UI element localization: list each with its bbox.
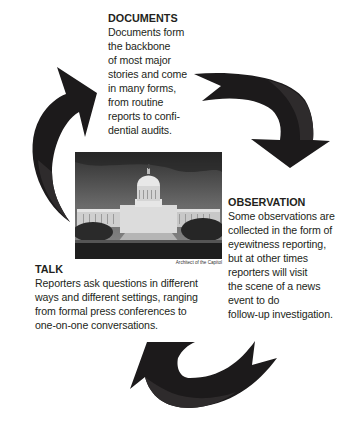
documents-text-line: Documents form [108, 25, 187, 39]
observation-section: OBSERVATION Some observations are collec… [228, 195, 335, 321]
talk-text-line: ways and different settings, ranging [35, 290, 198, 304]
observation-text-line: Some observations are [228, 209, 335, 223]
documents-text-line: of most major [108, 53, 187, 67]
documents-text-line: in many forms, [108, 81, 187, 95]
observation-text-line: the scene of a news [228, 279, 335, 293]
observation-text-line: eyewitness reporting, [228, 237, 335, 251]
talk-heading: TALK [35, 262, 198, 276]
documents-text-line: the backbone [108, 39, 187, 53]
observation-text-line: event to do [228, 293, 335, 307]
observation-text-line: reporters will visit [228, 265, 335, 279]
observation-text-line: but at other times [228, 251, 335, 265]
arrow-observation-to-talk-icon [130, 341, 277, 408]
talk-text-line: one-on-one conversations. [35, 318, 198, 332]
documents-text-line: stories and come [108, 67, 187, 81]
capitol-photo [75, 152, 222, 259]
observation-heading: OBSERVATION [228, 195, 335, 209]
documents-heading: DOCUMENTS [108, 11, 187, 25]
documents-text-line: dential audits. [108, 123, 187, 137]
capitol-image [75, 152, 222, 259]
talk-text-line: Reporters ask questions in different [35, 276, 198, 290]
observation-text-line: collected in the form of [228, 223, 335, 237]
talk-section: TALK Reporters ask questions in differen… [35, 262, 198, 332]
documents-text-line: reports to confi- [108, 109, 187, 123]
observation-text-line: follow-up investigation. [228, 307, 335, 321]
talk-text-line: from formal press conferences to [35, 304, 198, 318]
documents-section: DOCUMENTS Documents form the backbone of… [108, 11, 187, 137]
documents-text-line: from routine [108, 95, 187, 109]
